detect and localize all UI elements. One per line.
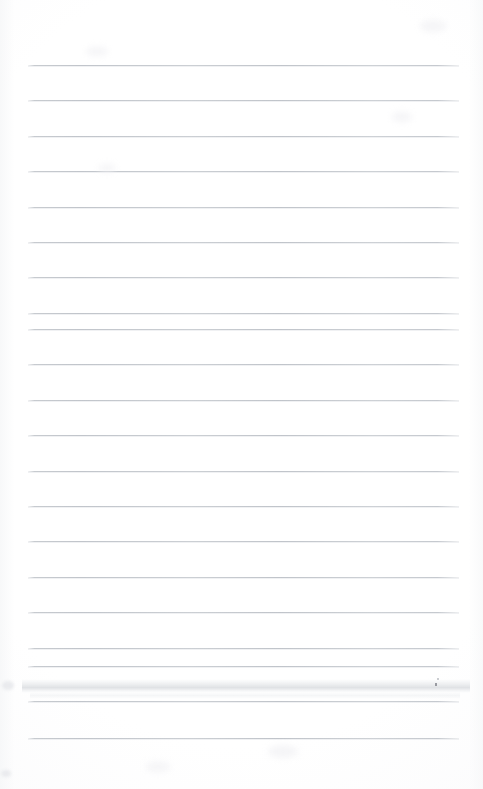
ruled-line [28,65,459,66]
ruled-line [28,648,459,649]
ruled-line [28,171,459,172]
scanned-page: Blank lined paper [0,0,483,789]
ruled-line [28,666,459,667]
ruled-line [28,577,459,578]
ruled-line [28,277,459,278]
ruled-line [28,612,459,613]
ruled-line [28,471,459,472]
ruled-line [28,506,459,507]
ruled-line [28,313,459,314]
ruled-line [28,207,459,208]
ruled-line [28,242,459,243]
ruled-line [28,364,459,365]
ruled-line [28,541,459,542]
ruled-line [28,701,459,702]
ruled-line [28,400,459,401]
ruled-line [28,136,459,137]
ruled-line [28,329,459,330]
ruled-line [28,435,459,436]
ruled-lines-layer [0,0,483,789]
ruled-line [28,100,459,101]
ruled-line [28,738,459,739]
